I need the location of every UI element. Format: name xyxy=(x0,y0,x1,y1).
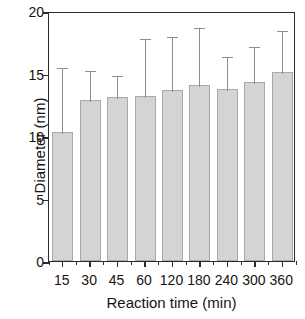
error-bar-line-15 xyxy=(62,68,63,134)
x-tick-mark-45 xyxy=(117,261,119,267)
bar-60 xyxy=(135,96,156,261)
error-bar-line-300 xyxy=(254,47,255,85)
x-tick-mark-60 xyxy=(144,261,146,267)
x-tick-minor-4 xyxy=(186,261,187,265)
y-tick-label: 20 xyxy=(14,4,44,21)
error-bar-cap-360 xyxy=(277,31,288,32)
plot-area: 05101520 xyxy=(48,12,295,262)
error-bar-line-360 xyxy=(282,31,283,75)
bar-group-30 xyxy=(80,13,101,261)
x-tick-mark-30 xyxy=(89,261,91,267)
x-tick-minor-6 xyxy=(241,261,242,265)
x-tick-minor-7 xyxy=(268,261,269,265)
bar-360 xyxy=(272,72,293,261)
y-tick-label: 5 xyxy=(14,192,44,209)
x-tick-label-360: 360 xyxy=(261,272,301,288)
error-bar-cap-30 xyxy=(85,71,96,72)
bar-45 xyxy=(107,97,128,261)
error-bar-line-120 xyxy=(172,37,173,92)
bar-group-60 xyxy=(135,13,156,261)
error-bar-cap-300 xyxy=(249,47,260,48)
bar-group-180 xyxy=(189,13,210,261)
x-tick-minor-1 xyxy=(103,261,104,265)
bar-group-15 xyxy=(52,13,73,261)
error-bar-line-30 xyxy=(90,71,91,102)
x-tick-mark-15 xyxy=(62,261,64,267)
bar-300 xyxy=(244,82,265,261)
error-bar-cap-240 xyxy=(222,57,233,58)
bar-group-120 xyxy=(162,13,183,261)
bar-240 xyxy=(217,89,238,262)
y-tick-label: 0 xyxy=(14,254,44,271)
x-tick-minor-8 xyxy=(296,261,297,265)
error-bar-cap-15 xyxy=(57,68,68,69)
bar-group-360 xyxy=(272,13,293,261)
bar-15 xyxy=(52,132,73,261)
x-tick-minor-start xyxy=(49,261,50,265)
x-axis-title: Reaction time (min) xyxy=(48,294,295,311)
x-tick-mark-240 xyxy=(227,261,229,267)
x-tick-mark-300 xyxy=(254,261,256,267)
x-tick-minor-0 xyxy=(76,261,77,265)
bar-120 xyxy=(162,90,183,261)
error-bar-cap-180 xyxy=(194,28,205,29)
bar-group-300 xyxy=(244,13,265,261)
bar-30 xyxy=(80,100,101,261)
x-tick-minor-3 xyxy=(158,261,159,265)
x-tick-mark-180 xyxy=(199,261,201,267)
bar-180 xyxy=(189,85,210,261)
bars-container xyxy=(49,13,294,261)
x-tick-minor-2 xyxy=(131,261,132,265)
bar-group-45 xyxy=(107,13,128,261)
error-bar-line-45 xyxy=(117,76,118,100)
x-tick-minor-5 xyxy=(213,261,214,265)
error-bar-line-180 xyxy=(199,28,200,87)
error-bar-cap-120 xyxy=(167,37,178,38)
error-bar-line-240 xyxy=(227,57,228,91)
error-bar-cap-45 xyxy=(112,76,123,77)
x-tick-mark-360 xyxy=(282,261,284,267)
bar-group-240 xyxy=(217,13,238,261)
error-bar-line-60 xyxy=(145,39,146,98)
y-tick-label: 15 xyxy=(14,67,44,84)
x-tick-mark-120 xyxy=(172,261,174,267)
bar-chart-figure: Diameter (nm) 05101520 15304560120180240… xyxy=(0,0,305,319)
y-tick-label: 10 xyxy=(14,129,44,146)
error-bar-cap-60 xyxy=(140,39,151,40)
